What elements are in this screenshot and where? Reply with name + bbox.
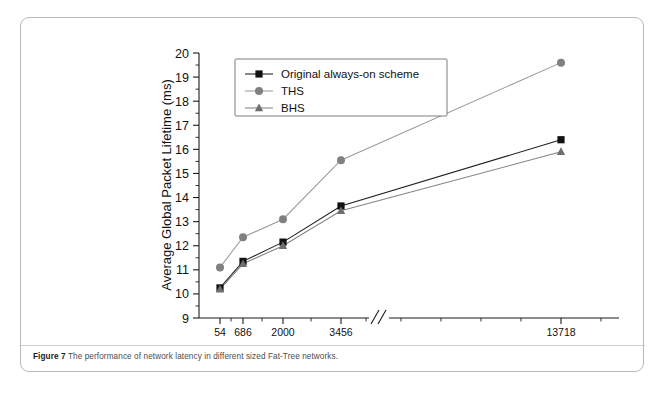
legend-marker-square [255, 70, 262, 77]
legend-label-0: Original always-on scheme [281, 68, 419, 80]
series-line-0 [220, 140, 561, 288]
series-line-2 [220, 152, 561, 289]
x-axis-break-mark [369, 310, 389, 324]
x-axis: 546862000345613718 Number of Servers [199, 310, 619, 338]
y-tick-label: 10 [175, 287, 189, 301]
y-tick-label: 18 [175, 95, 189, 109]
data-point-marker-triangle [557, 147, 565, 155]
x-tick-label: 13718 [546, 326, 575, 338]
y-tick-label: 12 [175, 239, 189, 253]
legend-marker-circle [255, 87, 263, 95]
chart-plot-area: 91011121314151617181920 Average Global P… [21, 18, 645, 338]
legend-label-1: THS [281, 85, 304, 97]
caption-divider [21, 345, 645, 346]
y-tick-label: 11 [176, 263, 189, 277]
y-axis-tick-labels: 91011121314151617181920 [175, 47, 189, 326]
line-chart: 91011121314151617181920 Average Global P… [21, 18, 645, 338]
x-tick-label: 3456 [329, 326, 353, 338]
x-tick-label: 54 [214, 326, 226, 338]
y-tick-label: 15 [175, 167, 189, 181]
chart-legend: Original always-on schemeTHSBHS [235, 59, 447, 116]
figure-card: 91011121314151617181920 Average Global P… [20, 17, 644, 372]
data-point-marker-circle [337, 156, 345, 164]
y-axis-title: Average Global Packet Lifetime (ms) [159, 79, 174, 290]
data-point-marker-circle [239, 233, 247, 241]
y-axis-ticks [193, 53, 199, 318]
y-tick-label: 19 [175, 71, 189, 85]
y-tick-label: 14 [175, 191, 189, 205]
legend-label-2: BHS [281, 102, 305, 114]
x-tick-label: 2000 [271, 326, 295, 338]
y-tick-label: 9 [182, 312, 189, 326]
y-tick-label: 20 [175, 47, 189, 61]
figure-caption: Figure 7 The performance of network late… [33, 352, 633, 363]
y-tick-label: 16 [175, 143, 189, 157]
x-tick-label: 686 [234, 326, 252, 338]
y-tick-label: 17 [175, 119, 189, 133]
data-point-marker-circle [216, 263, 224, 271]
y-axis: 91011121314151617181920 Average Global P… [159, 47, 199, 326]
x-axis-ticks [220, 318, 601, 324]
figure-label: Figure 7 [33, 352, 66, 361]
figure-caption-text: The performance of network latency in di… [68, 352, 338, 361]
x-axis-tick-labels: 546862000345613718 [214, 326, 576, 338]
data-point-marker-square [557, 136, 564, 143]
y-tick-label: 13 [175, 215, 189, 229]
data-point-marker-circle [557, 59, 565, 67]
data-point-marker-circle [279, 215, 287, 223]
